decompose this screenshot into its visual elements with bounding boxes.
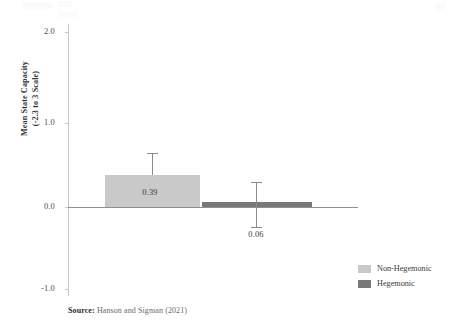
error-bar-cap-bottom-hegemonic [251,227,262,228]
legend-swatch-hegemonic [358,280,371,288]
y-tick-label: 1.0 [15,118,55,127]
source-prefix: Source: [68,306,95,315]
legend-item-non-hegemonic[interactable]: Non-Hegemonic [358,262,464,275]
chart-legend: Non-Hegemonic Hegemonic [358,262,464,292]
page-artifact [58,12,78,17]
y-tick-mark [65,289,69,290]
error-bar-cap-top-non-hegemonic [147,153,158,154]
page-artifact [436,2,445,10]
legend-item-hegemonic[interactable]: Hegemonic [358,277,464,290]
chart-figure: Mean State Capacity (-2.3 to 3 Scale) 2.… [0,0,464,322]
source-note: Source: Hanson and Sigman (2021) [68,306,187,315]
y-axis-label-line2: (-2.3 to 3 Scale) [30,14,41,184]
y-tick-mark [65,32,69,33]
error-bar-hegemonic [256,182,257,227]
y-axis-label-line1: Mean State Capacity [20,14,31,184]
y-tick-mark [65,123,69,124]
legend-swatch-non-hegemonic [358,265,371,273]
source-citation: Hanson and Sigman (2021) [97,306,187,315]
zero-baseline [68,207,358,208]
y-axis-line [68,24,69,296]
y-tick-label: 2.0 [15,27,55,36]
legend-label-non-hegemonic: Non-Hegemonic [377,264,432,273]
page-artifact [22,2,52,9]
plot-area: 2.0 1.0 0.0 -1.0 0.39 0.06 [68,24,358,296]
error-bar-cap-top-hegemonic [251,182,262,183]
error-bar-non-hegemonic [152,153,153,175]
y-tick-label: 0.0 [15,202,55,211]
y-tick-label: -1.0 [15,284,55,293]
y-axis-label: Mean State Capacity (-2.3 to 3 Scale) [20,14,41,184]
page-artifact [58,1,72,7]
legend-label-hegemonic: Hegemonic [377,279,415,288]
bar-value-label-non-hegemonic: 0.39 [130,188,170,197]
bar-value-label-hegemonic: 0.06 [236,230,276,239]
bar-hegemonic[interactable] [202,202,312,207]
